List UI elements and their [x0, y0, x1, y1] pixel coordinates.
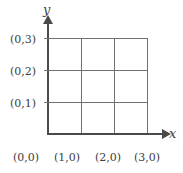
x-axis-label-2-0: (2,0) [95, 152, 121, 163]
x-axis-label-3-0: (3,0) [134, 152, 160, 163]
grid-outline [48, 38, 148, 134]
y-axis-tick-2 [44, 70, 49, 71]
y-axis-tick-3 [44, 38, 49, 39]
y-axis-label-0-2: (0,2) [10, 66, 36, 77]
x-axis-name: x [169, 127, 176, 140]
grid-line-horizontal-1 [48, 70, 148, 71]
grid-line-horizontal-2 [48, 102, 148, 103]
x-axis [47, 133, 164, 135]
coordinate-grid-figure: y x (0,3) (0,2) (0,1) (0,0) (1,0) (2,0) … [0, 0, 183, 173]
grid-line-vertical-2 [114, 38, 115, 134]
y-axis-label-0-3: (0,3) [10, 34, 36, 45]
grid-line-vertical-1 [81, 38, 82, 134]
y-axis-tick-1 [44, 102, 49, 103]
x-axis-label-1-0: (1,0) [54, 152, 80, 163]
y-axis-name: y [43, 3, 50, 16]
x-axis-label-0-0: (0,0) [13, 152, 39, 163]
y-axis-label-0-1: (0,1) [10, 98, 36, 109]
